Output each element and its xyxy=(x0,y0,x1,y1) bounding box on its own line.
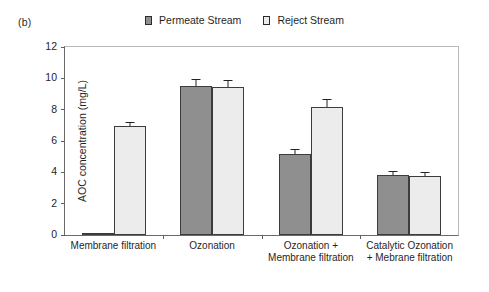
x-category-label: Catalytic Ozonation + Mebrane filtration xyxy=(360,240,459,263)
bar-permeate[interactable] xyxy=(279,154,311,235)
legend-item-permeate: Permeate Stream xyxy=(145,14,241,26)
error-bar xyxy=(228,80,229,87)
x-category-label: Ozonation + Membrane filtration xyxy=(262,240,361,263)
x-tick-mark xyxy=(163,235,164,239)
x-category-label: Membrane filtration xyxy=(64,240,163,263)
error-bar-cap xyxy=(322,99,331,100)
y-tick-label: 4 xyxy=(31,165,57,177)
bar-group xyxy=(163,47,261,235)
error-bar-cap xyxy=(192,79,201,80)
y-tick-label: 0 xyxy=(31,228,57,240)
bar-reject[interactable] xyxy=(311,107,343,235)
plot-area: AOC concentration (mg/L) 024681012 xyxy=(64,46,459,236)
error-bar-cap xyxy=(126,122,135,123)
x-tick-mark xyxy=(262,235,263,239)
bar-slot xyxy=(409,47,441,235)
x-tick-mark xyxy=(360,235,361,239)
bar-slot xyxy=(377,47,409,235)
y-tick-label: 10 xyxy=(31,71,57,83)
bar-reject[interactable] xyxy=(409,176,441,235)
legend-label-reject: Reject Stream xyxy=(277,14,344,26)
x-category-label: Ozonation xyxy=(163,240,262,263)
error-bar xyxy=(196,79,197,86)
bar-reject[interactable] xyxy=(212,87,244,235)
y-tick-label: 12 xyxy=(31,40,57,52)
bar-slot xyxy=(114,47,146,235)
bar-slot xyxy=(279,47,311,235)
x-axis-category-labels: Membrane filtrationOzonationOzonation + … xyxy=(64,240,459,263)
y-tick-label: 6 xyxy=(31,134,57,146)
bar-group xyxy=(65,47,163,235)
y-tick-label: 2 xyxy=(31,197,57,209)
panel-label: (b) xyxy=(18,16,31,28)
bar-slot xyxy=(311,47,343,235)
bar-group xyxy=(262,47,360,235)
error-bar-cap xyxy=(388,171,397,172)
bar-permeate[interactable] xyxy=(82,233,114,235)
bar-reject[interactable] xyxy=(114,126,146,235)
legend-item-reject: Reject Stream xyxy=(263,14,344,26)
bar-permeate[interactable] xyxy=(377,175,409,235)
bar-slot xyxy=(180,47,212,235)
legend-label-permeate: Permeate Stream xyxy=(159,14,241,26)
bar-slot xyxy=(82,47,114,235)
bar-group xyxy=(360,47,458,235)
bar-groups xyxy=(65,47,458,235)
error-bar-cap xyxy=(420,172,429,173)
filled-square-swatch-icon xyxy=(145,16,152,25)
error-bar-cap xyxy=(224,80,233,81)
error-bar-cap xyxy=(290,149,299,150)
y-tick-label: 8 xyxy=(31,103,57,115)
bar-slot xyxy=(212,47,244,235)
chart-legend: Permeate Stream Reject Stream xyxy=(0,14,489,26)
error-bar xyxy=(326,99,327,106)
bar-permeate[interactable] xyxy=(180,86,212,235)
open-square-swatch-icon xyxy=(263,16,270,25)
